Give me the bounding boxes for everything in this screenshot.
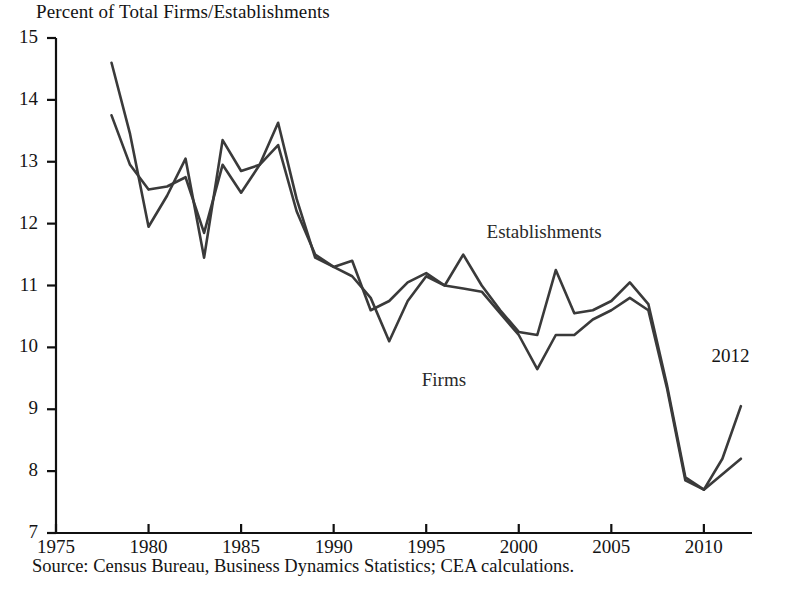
x-tick-label: 1975 — [21, 536, 91, 558]
y-tick-label: 8 — [4, 459, 38, 481]
x-tick-label: 2010 — [669, 536, 739, 558]
x-tick-label: 2000 — [484, 536, 554, 558]
y-tick-label: 12 — [4, 212, 38, 234]
x-tick-label: 1985 — [206, 536, 276, 558]
source-note: Source: Census Bureau, Business Dynamics… — [32, 556, 574, 577]
y-tick-label: 11 — [4, 274, 38, 296]
chart-figure: Percent of Total Firms/Establishments 78… — [0, 0, 788, 592]
series-label-firms: Firms — [422, 369, 466, 391]
series-label-establishments: Establishments — [487, 221, 602, 243]
y-tick-label: 10 — [4, 335, 38, 357]
x-tick-label: 1995 — [391, 536, 461, 558]
chart-plot-area — [0, 0, 788, 592]
x-tick-label: 1990 — [299, 536, 369, 558]
y-tick-label: 13 — [4, 150, 38, 172]
y-tick-label: 9 — [4, 397, 38, 419]
y-tick-label: 15 — [4, 26, 38, 48]
y-tick-label: 14 — [4, 88, 38, 110]
annotation-year: 2012 — [711, 345, 749, 367]
x-tick-label: 2005 — [576, 536, 646, 558]
x-tick-label: 1980 — [114, 536, 184, 558]
